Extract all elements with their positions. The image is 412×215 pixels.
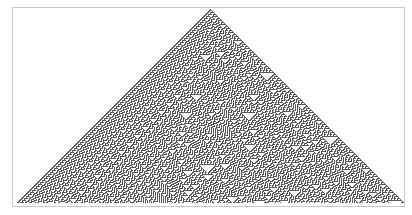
cellular-automaton-pattern bbox=[0, 0, 412, 215]
